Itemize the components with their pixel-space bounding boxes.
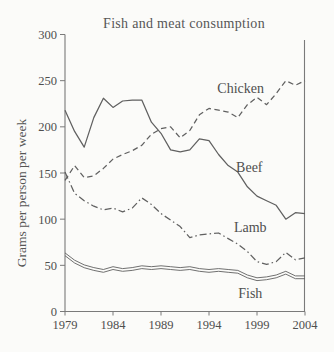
y-tick-label: 100 [38,213,57,227]
x-tick-label: 1984 [101,318,127,332]
y-tick-label: 150 [38,167,57,181]
x-tick-label: 1989 [149,318,174,332]
y-tick-label: 200 [38,120,57,134]
y-tick-label: 250 [38,74,57,88]
series-label-chicken: Chicken [217,81,264,96]
x-tick-label: 1994 [197,318,223,332]
series-line-beef [65,98,305,219]
y-tick-label: 0 [51,305,57,319]
y-tick-label: 300 [38,28,57,42]
x-tick-label: 2004 [293,318,319,332]
series-line-fish [65,253,305,278]
x-tick-label: 1999 [245,318,270,332]
series-label-lamb: Lamb [234,220,267,235]
series-label-fish: Fish [238,286,262,301]
x-tick-label: 1979 [53,318,78,332]
chart-canvas: 0501001502002503001979198419891994199920… [0,0,334,352]
series-label-beef: Beef [236,160,263,175]
series-line-chicken [65,81,305,181]
y-tick-label: 50 [45,259,58,273]
consumption-chart: Fish and meat consumption Grams per pers… [0,0,334,352]
series-line-lamb [65,172,305,264]
